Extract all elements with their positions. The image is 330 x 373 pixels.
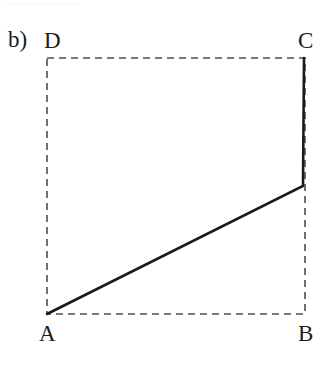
figure-panel-b: b) D C A B	[0, 0, 330, 373]
diagram-canvas	[0, 0, 330, 373]
vertex-label-c: C	[298, 29, 313, 52]
panel-tag-label: b)	[8, 28, 27, 51]
solid-polyline-a-to-c	[47, 58, 304, 314]
vertex-label-b: B	[298, 322, 313, 345]
vertex-label-a: A	[39, 322, 56, 345]
dashed-rectangle-abcd	[47, 58, 305, 314]
vertex-label-d: D	[44, 29, 61, 52]
